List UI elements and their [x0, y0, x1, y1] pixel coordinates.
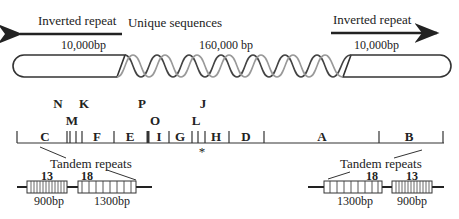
- left-leader-line-2: [107, 170, 136, 180]
- right-block1-count: 18: [366, 169, 378, 183]
- segment-labels: C F E I G H D A B: [40, 129, 413, 144]
- left-arrow-label: Inverted repeat: [38, 13, 117, 28]
- label-O: O: [150, 113, 160, 128]
- genome-diagram: Inverted repeat 10,000bp Unique sequence…: [0, 0, 459, 219]
- right-tandem-repeats: Tandem repeats 18 1300bp 13 900bp: [308, 156, 444, 208]
- middle-labels: M O L: [66, 113, 201, 128]
- segment-C: C: [40, 129, 49, 144]
- segment-F: F: [93, 129, 101, 144]
- label-N: N: [53, 96, 63, 111]
- restriction-map: [17, 131, 444, 143]
- left-block2-size: 1300bp: [94, 194, 130, 208]
- right-arrow-label: Inverted repeat: [333, 12, 412, 27]
- center-label: Unique sequences: [128, 15, 222, 30]
- right-block1-size: 1300bp: [337, 194, 373, 208]
- segment-I: I: [156, 129, 161, 144]
- left-size-label: 10,000bp: [61, 38, 106, 52]
- label-L: L: [192, 113, 201, 128]
- left-block2-count: 18: [81, 169, 93, 183]
- label-J: J: [200, 96, 207, 111]
- right-repeat-capsule: [343, 55, 451, 77]
- label-K: K: [79, 96, 90, 111]
- segment-B: B: [405, 129, 414, 144]
- upper-labels: N K P J: [53, 96, 206, 111]
- left-tandem-repeats: Tandem repeats 13 900bp 18 1300bp: [17, 156, 152, 208]
- label-P: P: [138, 96, 146, 111]
- segment-E: E: [126, 129, 135, 144]
- segment-A: A: [317, 129, 327, 144]
- segment-D: D: [241, 129, 250, 144]
- right-leader-line-2: [328, 172, 350, 179]
- segment-G: G: [175, 129, 185, 144]
- right-size-label: 10,000bp: [354, 38, 399, 52]
- right-block2-count: 13: [406, 169, 418, 183]
- right-block2-size: 900bp: [397, 194, 427, 208]
- right-inverted-repeat: Inverted repeat 10,000bp: [331, 12, 437, 52]
- marker-asterisk: *: [199, 144, 206, 159]
- left-block1-size: 900bp: [34, 194, 64, 208]
- center-size-label: 160,000 bp: [199, 38, 253, 52]
- left-inverted-repeat: Inverted repeat 10,000bp: [20, 13, 122, 52]
- left-block1-count: 13: [41, 169, 53, 183]
- label-M: M: [66, 113, 78, 128]
- unique-sequences-label: Unique sequences 160,000 bp: [128, 15, 253, 52]
- helix-icon: [117, 55, 351, 77]
- left-repeat-capsule: [13, 55, 125, 77]
- segment-H: H: [211, 129, 221, 144]
